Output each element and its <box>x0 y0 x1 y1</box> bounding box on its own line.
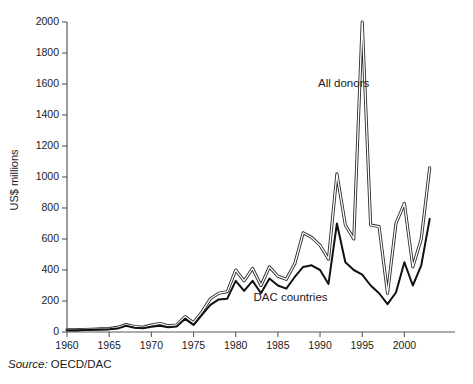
x-axis: 196019651970197519801985199019952000 <box>55 332 455 351</box>
data-series-group <box>67 22 430 330</box>
chart-figure: 0200400600800100012001400160018002000 19… <box>0 0 473 384</box>
series-line-outer <box>67 22 430 330</box>
x-tick-label: 1995 <box>351 339 375 351</box>
x-tick-label: 1960 <box>55 339 79 351</box>
y-tick-label: 1000 <box>36 170 60 182</box>
y-tick-label: 800 <box>41 201 59 213</box>
source-keyword: Source: <box>8 358 48 370</box>
y-tick-label: 600 <box>41 232 59 244</box>
x-tick-label: 1970 <box>140 339 164 351</box>
y-tick-label: 1800 <box>36 46 60 58</box>
series-line-inner <box>67 22 430 330</box>
x-tick-label: 1965 <box>97 339 121 351</box>
x-tick-label: 1980 <box>224 339 248 351</box>
source-note: Source: OECD/DAC <box>8 358 112 370</box>
x-tick-label: 1990 <box>308 339 332 351</box>
y-tick-label: 1600 <box>36 77 60 89</box>
y-tick-label: 200 <box>41 294 59 306</box>
aid-flows-line-chart: 0200400600800100012001400160018002000 19… <box>0 0 473 384</box>
y-axis: 0200400600800100012001400160018002000 <box>36 15 67 337</box>
y-axis-title: US$ millions <box>8 149 20 211</box>
y-tick-label: 1400 <box>36 108 60 120</box>
series-annotation-label: DAC countries <box>253 291 327 303</box>
series-all-donors <box>67 22 430 330</box>
x-tick-label: 1975 <box>182 339 206 351</box>
x-tick-label: 1985 <box>266 339 290 351</box>
y-tick-label: 2000 <box>36 15 60 27</box>
y-tick-label: 400 <box>41 263 59 275</box>
y-tick-label: 1200 <box>36 139 60 151</box>
x-tick-label: 2000 <box>393 339 417 351</box>
series-annotation-label: All donors <box>318 77 369 89</box>
source-value: OECD/DAC <box>51 358 112 370</box>
y-tick-label: 0 <box>53 325 59 337</box>
